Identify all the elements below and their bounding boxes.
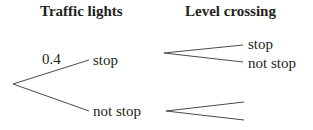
branch-root-not-stop	[13, 84, 89, 111]
branch-not-stop-lower	[166, 111, 244, 120]
branch-stop-stop	[164, 45, 243, 53]
stage1-stop-label: stop	[93, 53, 118, 68]
stage2-stop-label: stop	[248, 37, 273, 52]
branch-stop-not-stop	[164, 53, 243, 62]
probability-stop: 0.4	[42, 52, 61, 67]
branch-not-stop-upper	[166, 102, 244, 111]
stage1-not-stop-label: not stop	[93, 104, 141, 119]
stage2-not-stop-label: not stop	[248, 56, 296, 71]
